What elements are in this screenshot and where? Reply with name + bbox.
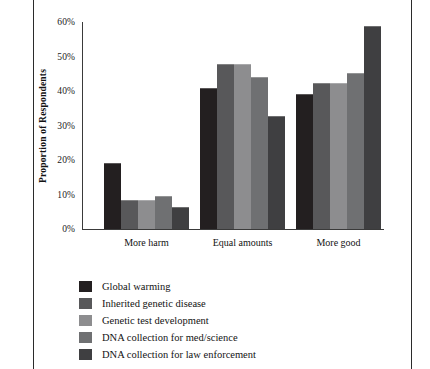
bar	[155, 196, 172, 229]
legend-item-label: Genetic test development	[102, 315, 209, 326]
y-axis-tick-label: 30%	[57, 121, 75, 131]
legend-item: Genetic test development	[79, 312, 256, 329]
y-axis-tick-label: 50%	[57, 52, 75, 62]
figure-border-left	[33, 0, 34, 369]
legend-item: Global warming	[79, 278, 256, 295]
legend-swatch-icon	[79, 315, 92, 326]
y-axis-tick-label: 20%	[57, 155, 75, 165]
figure: Proportion of Respondents 60%50%40%30%20…	[0, 0, 430, 369]
legend-item: DNA collection for law enforcement	[79, 346, 256, 363]
bar	[268, 116, 285, 229]
y-axis-title: Proportion of Respondents	[36, 22, 50, 230]
y-axis-tick-label: 40%	[57, 86, 75, 96]
legend-item-label: DNA collection for law enforcement	[102, 349, 256, 360]
bar	[172, 207, 189, 229]
y-axis-title-label: Proportion of Respondents	[38, 69, 48, 183]
bar	[347, 73, 364, 229]
bar	[217, 64, 234, 229]
bar	[313, 83, 330, 229]
y-axis-tick-label: 60%	[57, 17, 75, 27]
plot-area: 60%50%40%30%20%10%0% More harmEqual amou…	[82, 22, 384, 230]
legend-item-label: Inherited genetic disease	[102, 298, 206, 309]
legend-item: DNA collection for med/science	[79, 329, 256, 346]
legend-swatch-icon	[79, 298, 92, 309]
y-axis-tick-label: 10%	[57, 190, 75, 200]
legend-swatch-icon	[79, 281, 92, 292]
legend-swatch-icon	[79, 332, 92, 343]
bar-group: More harm	[104, 22, 189, 229]
bar	[251, 77, 268, 229]
x-axis-tick-label: Equal amounts	[213, 237, 273, 248]
x-axis-tick-label: More harm	[124, 237, 169, 248]
bar	[330, 83, 347, 229]
bar	[121, 200, 138, 229]
x-axis-tick-label: More good	[316, 237, 360, 248]
x-axis-line	[82, 229, 384, 230]
bar	[200, 88, 217, 229]
bar	[104, 163, 121, 229]
bar	[364, 26, 381, 229]
legend-item-label: DNA collection for med/science	[102, 332, 238, 343]
figure-border-right	[411, 0, 412, 369]
bar	[234, 64, 251, 229]
legend-item-label: Global warming	[102, 281, 171, 292]
bar-group: Equal amounts	[200, 22, 285, 229]
bar	[138, 200, 155, 229]
y-axis-tick-label: 0%	[62, 224, 75, 234]
y-axis-line	[82, 22, 83, 230]
legend-swatch-icon	[79, 349, 92, 360]
legend-item: Inherited genetic disease	[79, 295, 256, 312]
bar-group: More good	[296, 22, 381, 229]
legend: Global warmingInherited genetic diseaseG…	[79, 278, 256, 363]
bar	[296, 94, 313, 229]
